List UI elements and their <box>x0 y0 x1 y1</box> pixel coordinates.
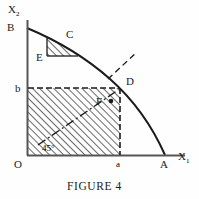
x-axis-label: X <box>178 150 186 162</box>
y-tick-label-b: b <box>15 82 21 94</box>
figure-caption: FIGURE 4 <box>67 180 122 192</box>
point-label-d: D <box>126 75 134 87</box>
origin-label: O <box>14 158 22 170</box>
point-label-f: F <box>96 95 102 107</box>
y-axis-label: X <box>8 3 16 15</box>
angle-label-45: 45° <box>42 143 55 153</box>
point-label-c: C <box>66 28 73 40</box>
y-axis-label-subscript: 2 <box>16 10 20 18</box>
figure-svg: X 2 X 1 B C E D F A b a O 45° FIGURE 4 <box>0 0 199 199</box>
x-tick-label-a: a <box>116 159 120 169</box>
point-label-e: E <box>36 51 43 63</box>
point-marker-f <box>109 99 114 104</box>
figure-container: X 2 X 1 B C E D F A b a O 45° FIGURE 4 <box>0 0 199 199</box>
point-label-a: A <box>160 158 168 170</box>
point-label-b: B <box>7 21 14 33</box>
x-axis-label-subscript: 1 <box>186 157 190 165</box>
